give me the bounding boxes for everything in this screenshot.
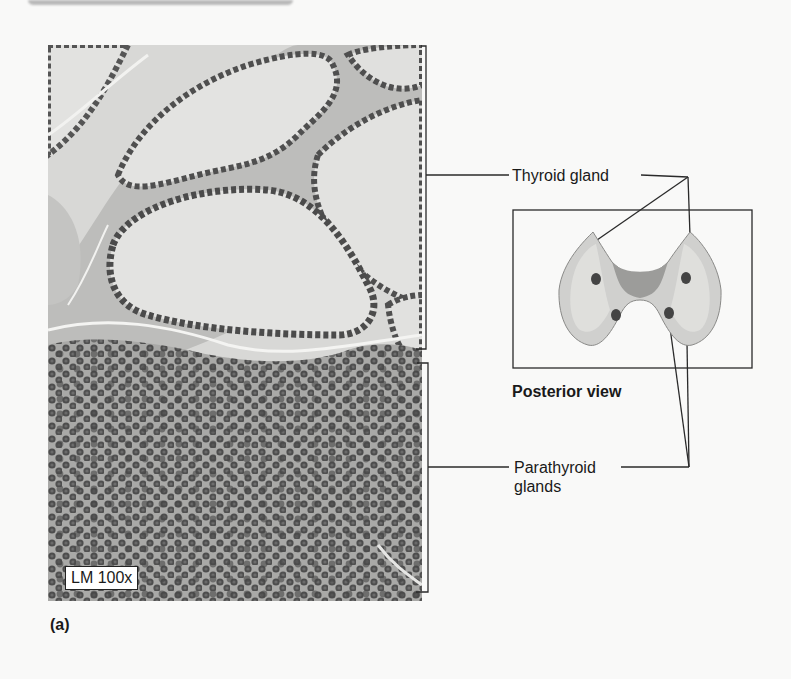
parathyroid-label-line2: glands xyxy=(514,477,596,496)
annotation-overlay xyxy=(0,0,791,679)
thyroid-bracket xyxy=(416,46,426,349)
thyroid-gland-illustration xyxy=(559,232,721,345)
parathyroid-label-line1: Parathyroid xyxy=(514,458,596,477)
thyroid-pointer-right xyxy=(688,177,690,236)
parathyroid-glands-label: Parathyroid glands xyxy=(514,458,596,496)
parathyroid-left-upper xyxy=(591,273,601,285)
thyroid-pointer-left xyxy=(597,177,688,240)
parathyroid-right-upper xyxy=(681,272,691,284)
thyroid-gland-label: Thyroid gland xyxy=(512,166,609,185)
parathyroid-right-lower xyxy=(664,307,674,319)
parathyroid-bracket xyxy=(416,363,428,592)
parathyroid-left-lower xyxy=(611,309,621,321)
posterior-view-caption: Posterior view xyxy=(512,382,621,401)
